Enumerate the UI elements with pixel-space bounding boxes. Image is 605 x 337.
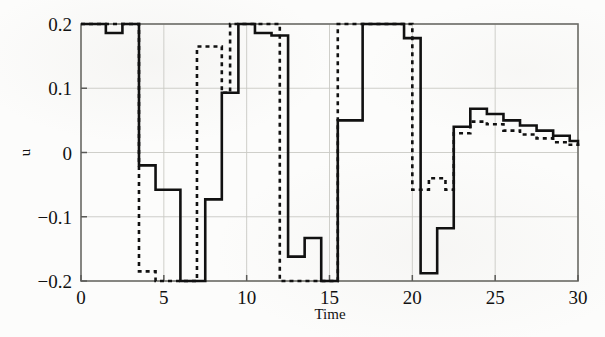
grid-lines <box>81 24 578 281</box>
x-tick-label: 0 <box>76 287 86 308</box>
chart-plot: 0510152025300.20.10−0.1−0.2 Time u <box>0 0 605 337</box>
x-tick-label: 10 <box>237 287 256 308</box>
x-tick-label: 5 <box>159 287 169 308</box>
x-tick-label: 25 <box>486 287 505 308</box>
y-tick-label: 0.1 <box>48 78 72 99</box>
y-axis-title: u <box>17 148 33 156</box>
x-tick-label: 15 <box>320 287 339 308</box>
x-tick-label: 20 <box>403 287 422 308</box>
y-tick-label: −0.1 <box>38 207 72 228</box>
x-axis-title: Time <box>314 306 345 322</box>
y-tick-label: 0 <box>63 143 73 164</box>
y-tick-label: 0.2 <box>48 14 72 35</box>
y-tick-label: −0.2 <box>38 271 72 292</box>
x-tick-label: 30 <box>569 287 588 308</box>
figure-canvas: 0510152025300.20.10−0.1−0.2 Time u <box>0 0 605 337</box>
axis-tick-labels: 0510152025300.20.10−0.1−0.2 <box>38 14 588 308</box>
